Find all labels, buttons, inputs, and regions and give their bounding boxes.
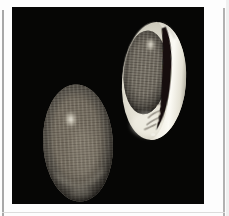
page-rule-bottom	[2, 212, 225, 213]
page-rule-right	[223, 8, 225, 216]
seashell-photo-canvas	[12, 7, 204, 204]
seashell-photo	[12, 7, 204, 204]
page-edge-strip	[226, 0, 229, 216]
page-rule-left	[2, 10, 4, 216]
page	[0, 0, 229, 216]
